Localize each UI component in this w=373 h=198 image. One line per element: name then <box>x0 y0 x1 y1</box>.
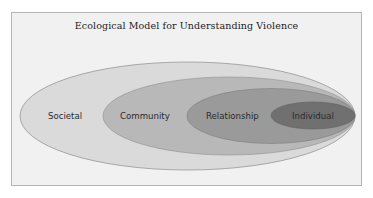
label-societal: Societal <box>48 111 82 121</box>
label-relationship: Relationship <box>206 111 259 121</box>
label-community: Community <box>120 111 170 121</box>
label-individual: Individual <box>292 111 334 121</box>
nested-ellipses-diagram: Societal Community Relationship Individu… <box>0 0 373 198</box>
